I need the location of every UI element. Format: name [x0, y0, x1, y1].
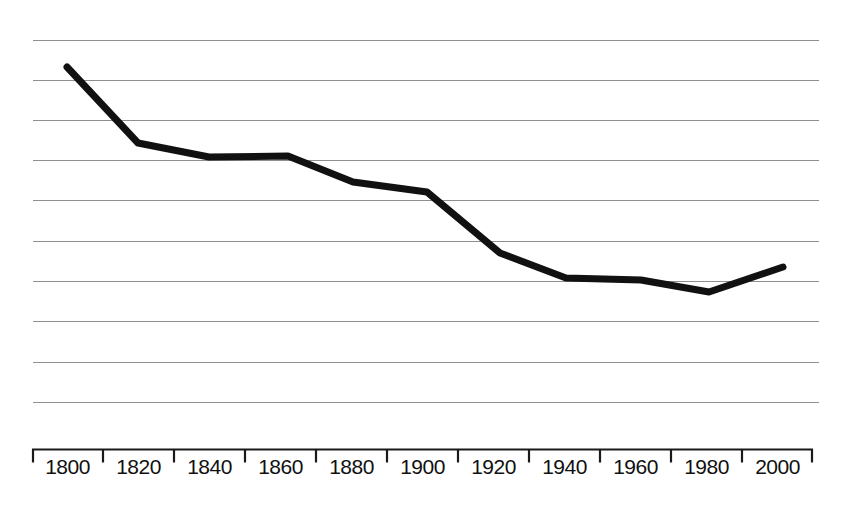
x-tick-label-1800: 1800 — [45, 455, 90, 479]
x-tick-label-1880: 1880 — [329, 455, 374, 479]
x-tick-label-1960: 1960 — [613, 455, 658, 479]
plot-area — [0, 0, 846, 440]
line-chart: 1800182018401860188019001920194019601980… — [0, 0, 846, 520]
series-line — [0, 0, 846, 440]
x-tick-label-2000: 2000 — [755, 455, 800, 479]
x-tick-label-1860: 1860 — [258, 455, 303, 479]
x-tick-label-1820: 1820 — [116, 455, 161, 479]
x-tick-label-1920: 1920 — [471, 455, 516, 479]
data-line — [67, 67, 783, 292]
x-tick-label-1980: 1980 — [684, 455, 729, 479]
x-axis-tick-labels: 1800182018401860188019001920194019601980… — [0, 455, 846, 500]
x-tick-label-1840: 1840 — [187, 455, 232, 479]
x-tick-label-1940: 1940 — [542, 455, 587, 479]
x-tick-label-1900: 1900 — [400, 455, 445, 479]
